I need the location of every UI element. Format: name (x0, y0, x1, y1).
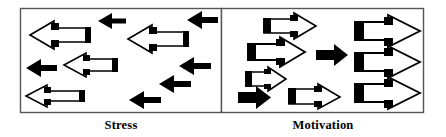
panel-label-motivation: Motivation (222, 118, 424, 133)
diagram-canvas (0, 0, 446, 137)
arrow-diagram-figure (0, 0, 446, 137)
panel-label-stress: Stress (20, 118, 222, 133)
